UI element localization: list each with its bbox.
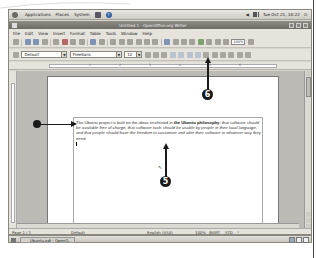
separator xyxy=(161,39,162,46)
zoom-combo[interactable]: 100% xyxy=(231,39,245,45)
find-replace-icon[interactable] xyxy=(189,39,195,45)
highlighting-icon[interactable] xyxy=(245,52,251,58)
export-pdf-icon[interactable] xyxy=(62,39,68,45)
callout-6: 6 xyxy=(202,89,213,100)
copy-icon[interactable] xyxy=(119,39,125,45)
panel-menu-system[interactable]: System xyxy=(74,12,90,17)
panel-menu-applications[interactable]: Applications xyxy=(25,12,51,17)
menu-view[interactable]: View xyxy=(38,31,48,36)
formatting-toolbar: Default ▼ FreeSans ▼ 12 ▼ xyxy=(9,49,311,61)
menu-table[interactable]: Table xyxy=(90,31,101,36)
scroll-up-button[interactable] xyxy=(306,71,311,76)
power-icon[interactable]: ⏻ xyxy=(304,12,307,17)
cut-icon[interactable] xyxy=(110,39,116,45)
desktop-screen: Applications Places System ? ◀ Tue Oct 2… xyxy=(8,9,312,235)
menu-help[interactable]: Help xyxy=(143,31,153,36)
separator xyxy=(21,39,22,46)
chevron-down-icon[interactable]: ▼ xyxy=(61,52,66,57)
help-icon[interactable]: ? xyxy=(106,12,112,18)
align-left-icon[interactable] xyxy=(170,52,176,58)
spellcheck-icon[interactable] xyxy=(90,39,96,45)
horizontal-ruler[interactable]: 1 2 3 4 5 6 xyxy=(9,62,311,70)
save-icon[interactable] xyxy=(33,39,39,45)
taskbar-window-button[interactable]: Ubuntu.odt - OpenO... xyxy=(20,237,75,243)
bold-icon[interactable] xyxy=(145,52,151,58)
redo-icon[interactable] xyxy=(152,39,158,45)
gnome-top-panel: Applications Places System ? ◀ Tue Oct 2… xyxy=(9,10,311,20)
minimize-button[interactable] xyxy=(289,23,294,28)
menu-insert[interactable]: Insert xyxy=(53,31,65,36)
menu-format[interactable]: Format xyxy=(70,31,85,36)
status-page: Page 1 / 1 xyxy=(12,230,31,235)
status-selection-mode[interactable]: STD xyxy=(225,230,233,235)
ruler-tick: 1 xyxy=(89,63,91,67)
align-center-icon[interactable] xyxy=(178,52,184,58)
align-right-icon[interactable] xyxy=(187,52,193,58)
hyperlink-icon[interactable] xyxy=(164,39,170,45)
email-icon[interactable] xyxy=(42,39,48,45)
menu-file[interactable]: File xyxy=(13,31,20,36)
menu-window[interactable]: Window xyxy=(121,31,138,36)
previous-page-button[interactable] xyxy=(306,212,311,217)
font-color-icon[interactable] xyxy=(237,52,243,58)
datasources-icon[interactable] xyxy=(215,39,221,45)
chevron-down-icon[interactable]: ▼ xyxy=(136,52,141,57)
menu-tools[interactable]: Tools xyxy=(106,31,116,36)
ruler-tick: 6 xyxy=(239,63,241,67)
window-titlebar[interactable]: Untitled 1 - OpenOffice.org Writer xyxy=(9,21,311,29)
standard-toolbar: 100% xyxy=(9,37,311,48)
page-edge-line xyxy=(313,0,314,258)
font-name-select[interactable]: FreeSans ▼ xyxy=(70,51,122,58)
styles-formatting-icon[interactable] xyxy=(13,52,19,58)
paragraph-style-select[interactable]: Default ▼ xyxy=(21,51,67,58)
document-page[interactable]: The Ubuntu project is built on the ideas… xyxy=(47,76,279,235)
paste-icon[interactable] xyxy=(127,39,133,45)
decrease-indent-icon[interactable] xyxy=(220,52,226,58)
edit-file-icon[interactable] xyxy=(53,39,59,45)
italic-icon[interactable] xyxy=(153,52,159,58)
nonprinting-chars-icon[interactable] xyxy=(223,39,229,45)
maximize-button[interactable] xyxy=(296,23,301,28)
chevron-down-icon[interactable]: ▼ xyxy=(116,52,121,57)
panel-menu-places[interactable]: Places xyxy=(56,12,69,17)
increase-indent-icon[interactable] xyxy=(228,52,234,58)
bullets-icon[interactable] xyxy=(212,52,218,58)
open-icon[interactable] xyxy=(25,39,31,45)
navigation-button[interactable] xyxy=(306,218,311,223)
show-draw-functions-icon[interactable] xyxy=(181,39,187,45)
workspace-3[interactable] xyxy=(303,237,309,243)
gallery-icon[interactable] xyxy=(206,39,212,45)
callout-line-6 xyxy=(207,62,209,90)
new-document-icon[interactable] xyxy=(13,39,19,45)
help-toolbar-icon[interactable] xyxy=(248,39,254,45)
close-button[interactable] xyxy=(303,23,308,28)
scrollbar-thumb[interactable] xyxy=(306,77,311,97)
workspace-switcher xyxy=(289,237,309,243)
browser-launcher-icon[interactable] xyxy=(95,12,101,18)
underline-icon[interactable] xyxy=(161,52,167,58)
format-paintbrush-icon[interactable] xyxy=(136,39,142,45)
undo-icon[interactable] xyxy=(144,39,150,45)
vertical-ruler[interactable] xyxy=(9,71,17,229)
workspace-1[interactable] xyxy=(289,237,295,243)
justify-icon[interactable] xyxy=(195,52,201,58)
font-size-select[interactable]: 12 ▼ xyxy=(124,51,142,58)
print-preview-icon[interactable] xyxy=(79,39,85,45)
menubar: File Edit View Insert Format Table Tools… xyxy=(9,29,311,37)
print-icon[interactable] xyxy=(70,39,76,45)
workspace-2[interactable] xyxy=(296,237,302,243)
callout-line-5 xyxy=(165,148,167,178)
menu-edit[interactable]: Edit xyxy=(25,31,33,36)
vertical-scrollbar[interactable] xyxy=(304,71,311,229)
autospellcheck-icon[interactable] xyxy=(99,39,105,45)
document-text[interactable]: The Ubuntu project is built on the ideas… xyxy=(76,120,262,141)
panel-clock[interactable]: Tue Oct 21, 10:22 xyxy=(263,12,300,17)
status-insert-mode[interactable]: INSRT xyxy=(209,230,220,235)
navigator-icon[interactable] xyxy=(198,39,204,45)
table-icon[interactable] xyxy=(173,39,179,45)
status-zoom: 100% xyxy=(195,230,206,235)
network-icon[interactable] xyxy=(253,12,259,17)
show-desktop-icon[interactable] xyxy=(11,238,16,243)
mouse-pointer-icon: ↖ xyxy=(158,164,162,170)
speaker-icon[interactable]: ◀ xyxy=(246,12,249,17)
